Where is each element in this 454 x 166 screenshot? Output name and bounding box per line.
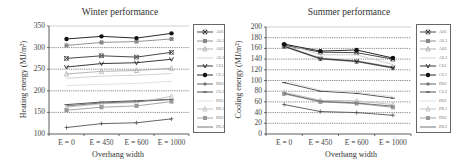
x-tick-label: E = 450 (300, 138, 340, 147)
legend-label: AL1 (439, 37, 447, 45)
legend-swatch-icon (196, 62, 214, 70)
winter-title: Winter performance (70, 7, 170, 17)
legend-label: A01 (216, 28, 224, 36)
legend-swatch-icon (419, 28, 437, 36)
legend-swatch-icon (196, 105, 214, 113)
legend-label: D02 (439, 80, 447, 88)
legend-item: C01 (419, 62, 449, 70)
legend-label: DL2 (439, 123, 447, 131)
legend-label: C01 (439, 62, 447, 70)
legend-swatch-icon (196, 54, 214, 62)
series-d01 (284, 81, 393, 97)
y-tick-label: 140 (240, 54, 262, 63)
summer-chart: Summer performance Cooling energy (MJ/m²… (227, 0, 454, 166)
y-tick-label: 200 (240, 22, 262, 31)
legend-label: CL1 (216, 71, 224, 79)
series-dl2 (284, 93, 393, 106)
legend-item: DL1 (419, 105, 449, 113)
legend-label: CL2 (439, 88, 447, 96)
x-tick-label: E = 1000 (373, 138, 413, 147)
legend-item: A01 (196, 28, 226, 36)
legend-swatch-icon (196, 80, 214, 88)
legend-swatch-icon (196, 37, 214, 45)
legend-item: A02 (419, 45, 449, 53)
legend-item: DL2 (196, 123, 226, 131)
y-tick-label: 200 (23, 86, 45, 95)
y-tick-label: 0 (240, 129, 262, 138)
legend-label: DL2 (216, 123, 224, 131)
legend-label: AL2 (216, 54, 224, 62)
y-tick-label: 100 (23, 129, 45, 138)
y-tick-label: 180 (240, 33, 262, 42)
legend-label: D02 (439, 114, 447, 122)
y-tick-label: 300 (23, 43, 45, 52)
legend-item: DL1 (196, 105, 226, 113)
legend-item: D02 (196, 80, 226, 88)
legend-swatch-icon (419, 80, 437, 88)
legend-swatch-icon (419, 71, 437, 79)
y-tick-label: 20 (240, 118, 262, 127)
legend-label: AL1 (216, 37, 224, 45)
legend-swatch-icon (196, 71, 214, 79)
y-tick-label: 350 (23, 21, 45, 30)
y-tick-label: 40 (240, 108, 262, 117)
series-al2 (284, 43, 393, 64)
summer-x-axis-label: Overhang width (311, 150, 391, 159)
legend-swatch-icon (419, 62, 437, 70)
legend-swatch-icon (419, 45, 437, 53)
legend-label: A02 (439, 45, 447, 53)
legend-item: CL1 (196, 71, 226, 79)
y-tick-label: 150 (23, 107, 45, 116)
series-a01 (65, 50, 174, 60)
legend-swatch-icon (196, 45, 214, 53)
legend-label: D01 (216, 97, 224, 105)
series-al2 (67, 74, 172, 79)
legend-swatch-icon (419, 105, 437, 113)
legend-label: DL1 (216, 105, 224, 113)
summer-title: Summer performance (299, 7, 399, 17)
legend-item: D02 (419, 114, 449, 122)
legend-item: AL2 (196, 54, 226, 62)
legend-swatch-icon (419, 123, 437, 131)
legend-label: AL2 (439, 54, 447, 62)
legend-item: DL2 (419, 123, 449, 131)
legend-label: D02 (216, 80, 224, 88)
y-tick-label: 160 (240, 43, 262, 52)
legend-item: A02 (196, 45, 226, 53)
y-tick-label: 60 (240, 97, 262, 106)
x-tick-label: E = 1000 (152, 138, 192, 147)
legend-item: AL1 (196, 37, 226, 45)
x-tick-label: E = 0 (264, 138, 304, 147)
series-d01 (67, 81, 172, 85)
x-tick-label: E = 450 (82, 138, 122, 147)
y-tick-label: 80 (240, 86, 262, 95)
legend-swatch-icon (419, 97, 437, 105)
x-tick-label: E = 0 (47, 138, 87, 147)
legend-swatch-icon (196, 123, 214, 131)
legend-label: CL1 (439, 71, 447, 79)
y-tick-label: 250 (23, 64, 45, 73)
legend-item: D01 (196, 97, 226, 105)
winter-legend: A01AL1A02AL2C01CL1D02CL2D01DL1D02DL2 (193, 24, 225, 133)
x-tick-label: E = 600 (117, 138, 157, 147)
legend-item: CL1 (419, 71, 449, 79)
winter-x-axis-label: Overhang width (78, 150, 158, 159)
series-al1 (65, 37, 174, 47)
legend-item: AL1 (419, 37, 449, 45)
y-tick-label: 100 (240, 76, 262, 85)
legend-swatch-icon (419, 114, 437, 122)
summer-legend: A01AL1A02AL2C01CL1D02CL2D01DL1D02DL2 (416, 24, 451, 133)
legend-swatch-icon (196, 97, 214, 105)
series-d02 (65, 117, 174, 130)
legend-label: A01 (439, 28, 447, 36)
winter-chart: Winter performance Heating energy (MJ/m²… (0, 0, 227, 166)
legend-label: D01 (439, 97, 447, 105)
legend-item: CL2 (419, 88, 449, 96)
legend-swatch-icon (196, 88, 214, 96)
series-c01 (65, 57, 174, 69)
legend-swatch-icon (419, 54, 437, 62)
legend-item: A01 (419, 28, 449, 36)
legend-swatch-icon (196, 114, 214, 122)
legend-label: A02 (216, 45, 224, 53)
legend-label: D02 (216, 114, 224, 122)
